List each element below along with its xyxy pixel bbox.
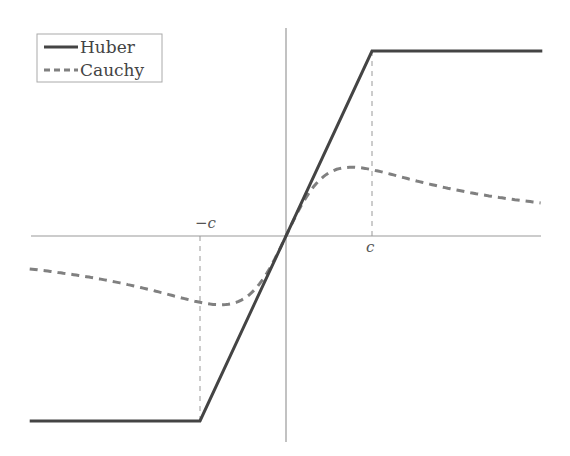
neg-c-label: −c [195, 214, 217, 232]
robust-loss-plot: −c c Huber Cauchy [0, 0, 570, 456]
legend-huber-label: Huber [80, 37, 136, 57]
chart-container: −c c Huber Cauchy [0, 0, 570, 456]
pos-c-label: c [366, 238, 375, 256]
legend-cauchy-label: Cauchy [80, 60, 145, 80]
legend: Huber Cauchy [37, 34, 162, 82]
